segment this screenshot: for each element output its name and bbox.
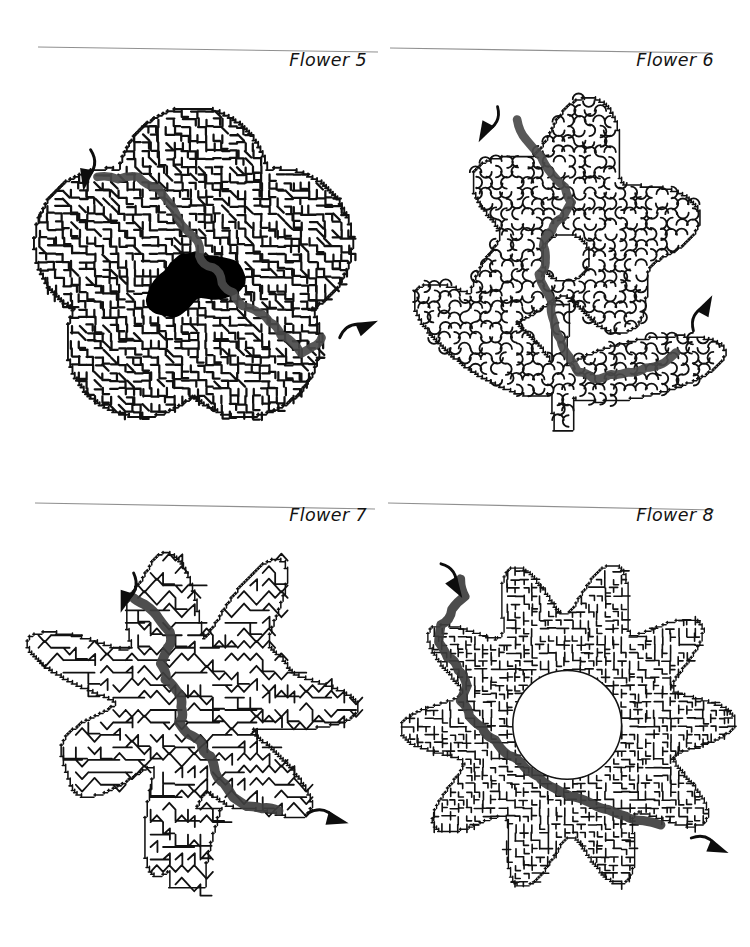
maze-solution-path xyxy=(97,176,321,353)
panel-caption: Flower 7 xyxy=(289,505,367,525)
maze-svg-flower-5 xyxy=(0,72,385,472)
entry-arrow-icon-head xyxy=(479,120,495,142)
maze-artwork xyxy=(380,72,750,472)
maze-walls xyxy=(413,93,726,430)
exit-arrow-icon-head xyxy=(696,295,712,317)
maze-svg-flower-6 xyxy=(380,72,750,472)
maze-artwork xyxy=(380,527,750,927)
maze-svg-flower-8 xyxy=(380,527,750,927)
page-canvas: Flower 5 Flower 6 xyxy=(0,0,750,947)
panel-caption: Flower 5 xyxy=(289,50,367,70)
panel-caption: Flower 6 xyxy=(636,50,714,70)
maze-center-blob xyxy=(513,670,622,779)
maze-center-hole xyxy=(513,670,622,779)
panel-caption: Flower 8 xyxy=(636,505,714,525)
maze-walls xyxy=(26,551,362,895)
maze-wall-texture xyxy=(39,554,363,896)
maze-panel: Flower 6 xyxy=(380,28,750,483)
maze-artwork xyxy=(0,527,385,927)
maze-solution-line xyxy=(97,176,321,353)
maze-panel: Flower 7 xyxy=(0,483,385,943)
maze-panel: Flower 8 xyxy=(380,483,750,943)
maze-artwork xyxy=(0,72,385,472)
maze-wall-texture xyxy=(413,93,719,426)
maze-svg-flower-7 xyxy=(0,527,385,927)
exit-arrow-icon-head xyxy=(355,321,378,337)
maze-outline xyxy=(26,551,358,887)
maze-panel: Flower 5 xyxy=(0,28,385,483)
exit-arrow-icon-head xyxy=(326,811,349,825)
